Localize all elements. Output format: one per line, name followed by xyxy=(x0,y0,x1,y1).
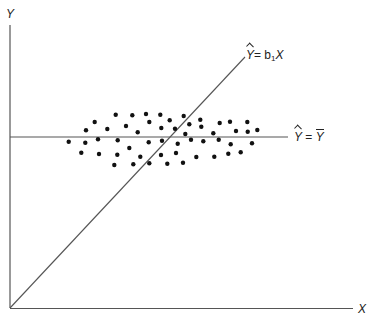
data-point xyxy=(226,152,230,156)
data-point xyxy=(218,121,222,125)
data-point xyxy=(211,131,215,135)
data-point xyxy=(194,155,198,159)
data-point xyxy=(112,163,116,167)
data-point xyxy=(174,151,178,155)
data-point xyxy=(159,153,163,157)
data-point xyxy=(165,162,169,166)
data-point xyxy=(97,152,101,156)
data-point xyxy=(130,113,134,117)
equals-sign: = xyxy=(305,130,312,144)
scatter-plot xyxy=(0,0,374,318)
data-point xyxy=(124,124,128,128)
data-point xyxy=(181,161,185,165)
data-point xyxy=(83,141,87,145)
data-point xyxy=(176,142,180,146)
data-point xyxy=(84,128,88,132)
equals-b: = b xyxy=(254,48,271,62)
regression-line-through-origin xyxy=(10,57,245,308)
data-point xyxy=(158,113,162,117)
data-point xyxy=(79,151,83,155)
data-point xyxy=(67,140,71,144)
data-point xyxy=(147,161,151,165)
data-point xyxy=(160,139,164,143)
data-point xyxy=(147,140,151,144)
data-point xyxy=(131,162,135,166)
data-point xyxy=(246,130,250,134)
data-point xyxy=(173,127,177,131)
data-point xyxy=(212,155,216,159)
y-axis-label: Y xyxy=(6,8,14,20)
data-point xyxy=(198,118,202,122)
data-point xyxy=(127,146,131,150)
data-point xyxy=(93,120,97,124)
regression-diagram: Y X Y= b1X Y = Y xyxy=(0,0,374,318)
y-hat-symbol: Y xyxy=(294,131,302,143)
data-point xyxy=(138,155,142,159)
mean-line-label: Y = Y xyxy=(294,131,324,143)
data-point xyxy=(199,125,203,129)
data-point xyxy=(116,138,120,142)
data-point xyxy=(136,130,140,134)
y-hat-symbol: Y xyxy=(246,49,254,61)
data-point xyxy=(239,150,243,154)
y-bar-symbol: Y xyxy=(316,131,324,143)
data-point xyxy=(217,138,221,142)
data-point xyxy=(105,127,109,131)
data-point xyxy=(201,139,205,143)
data-point xyxy=(115,153,119,157)
x-axis-label: X xyxy=(358,303,366,315)
data-point xyxy=(189,138,193,142)
regression-line-label: Y= b1X xyxy=(246,49,284,65)
data-point xyxy=(250,141,254,145)
data-point xyxy=(147,120,151,124)
data-points xyxy=(67,112,260,167)
data-point xyxy=(159,126,163,130)
data-point xyxy=(183,132,187,136)
data-point xyxy=(144,112,148,116)
data-point xyxy=(96,137,100,141)
data-point xyxy=(255,128,259,132)
data-point xyxy=(187,122,191,126)
data-point xyxy=(234,129,238,133)
x-symbol: X xyxy=(275,48,283,62)
data-point xyxy=(228,120,232,124)
data-point xyxy=(229,142,233,146)
data-point xyxy=(114,113,118,117)
data-point xyxy=(168,118,172,122)
data-point xyxy=(245,120,249,124)
data-point xyxy=(182,114,186,118)
